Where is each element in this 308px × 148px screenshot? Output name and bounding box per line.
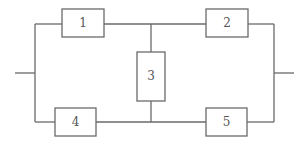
block-1: 1 — [62, 9, 104, 37]
block-5-label: 5 — [223, 115, 231, 129]
block-2: 2 — [206, 9, 248, 37]
reliability-block-diagram: 1 2 3 4 5 — [0, 0, 308, 148]
block-1-label: 1 — [79, 16, 87, 30]
block-4: 4 — [55, 108, 96, 136]
block-4-label: 4 — [72, 115, 80, 129]
block-2-label: 2 — [223, 16, 231, 30]
block-3: 3 — [137, 52, 165, 101]
block-5: 5 — [206, 108, 247, 136]
block-3-label: 3 — [147, 69, 155, 83]
